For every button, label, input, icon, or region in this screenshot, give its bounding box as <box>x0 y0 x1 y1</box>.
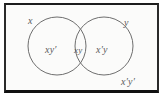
set-label-y: y <box>124 18 129 28</box>
venn-diagram-figure: x y xy′ xy x′y x′y′ <box>0 0 166 101</box>
region-label-intersection: xy <box>74 46 82 55</box>
region-label-y-only: x′y <box>96 45 108 55</box>
region-label-outside: x′y′ <box>121 77 135 87</box>
venn-circles <box>0 0 166 101</box>
region-label-x-only: xy′ <box>45 45 57 55</box>
set-label-x: x <box>28 16 33 26</box>
